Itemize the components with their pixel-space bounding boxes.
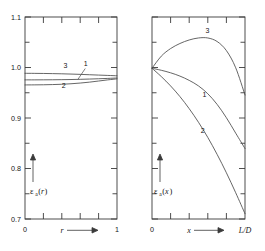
left-curve-1 [25,78,117,80]
left-x-tick-label-1: 1 [115,225,119,234]
left-curve-label-3: 3 [64,62,68,69]
right-x-tick-label-0: 0 [150,225,154,234]
right-y-axis-label-close-paren: ) [169,187,172,196]
left-y-tick-label-1_0: 1.0 [11,63,21,72]
right-x-ticks [171,17,227,219]
left-curve-label-1: 1 [84,60,88,67]
right-y-axis-label-argument: x [164,187,169,196]
left-y-tick-label-1_1: 1.1 [11,13,21,22]
right-y-axis-label: ε a ( x ) [154,187,172,197]
left-curve-3 [25,73,117,75]
left-y-tick-label-0_7: 0.7 [11,215,21,224]
left-y-axis-arrow-icon [30,154,35,182]
right-plot-svg: 0 L/D x ε a ( x ) [133,0,265,251]
right-curve-label-2: 2 [201,127,205,134]
figure-container: 1.1 1.0 0.9 0.8 0.7 0 1 r ε a ( [0,0,265,251]
right-curve-label-3: 3 [205,27,209,34]
right-x-axis-label: x [186,226,191,235]
right-x-tick-label-ld: L/D [238,226,252,235]
right-plot-panel: 0 L/D x ε a ( x ) [133,0,265,251]
left-y-tick-label-0_9: 0.9 [11,114,21,123]
right-y-axis-label-symbol: ε [154,187,158,196]
left-curve-label-2: 2 [62,82,66,89]
left-y-right-ticks [111,17,117,219]
left-plot-svg: 1.1 1.0 0.9 0.8 0.7 0 1 r ε a ( [0,0,133,251]
left-x-axis-arrow-icon [67,228,98,233]
right-y-right-ticks [239,17,245,219]
right-curve-label-1: 1 [203,91,207,98]
left-x-ticks [43,17,98,219]
right-x-axis-arrow-icon [194,228,224,233]
left-y-tick-label-0_8: 0.8 [11,164,21,173]
left-x-axis-label: r [60,226,64,235]
left-plot-panel: 1.1 1.0 0.9 0.8 0.7 0 1 r ε a ( [0,0,133,251]
left-x-tick-label-0: 0 [23,225,27,234]
left-curves [25,69,117,85]
right-curve-1 [152,68,245,148]
left-y-axis-label: ε a ( r ) [30,187,47,197]
left-y-axis-label-symbol: ε [30,187,34,196]
left-y-axis-label-close-paren: ) [44,187,47,196]
right-y-axis-arrow-icon [157,154,162,182]
